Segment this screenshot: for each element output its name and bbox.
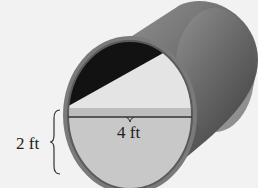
- pipe-diagram: [0, 0, 258, 188]
- depth-brace: [50, 110, 60, 174]
- water-surface: [60, 108, 200, 116]
- depth-label: 2 ft: [16, 135, 39, 152]
- width-label: 4 ft: [117, 124, 140, 141]
